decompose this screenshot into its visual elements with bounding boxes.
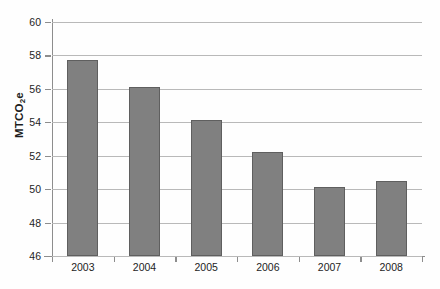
x-tick-mark [237,257,238,262]
bar-chart-figure: MTCO2e 4648505254565860 2003200420052006… [0,0,440,289]
bar [129,87,160,256]
x-tick-mark [422,257,423,262]
y-tick-label: 58 [19,50,41,61]
y-axis-title-subscript: 2 [18,99,27,104]
bar [67,60,98,256]
y-tick-mark [45,55,51,56]
gridline [52,122,422,123]
gridline [52,189,422,190]
y-tick-mark [45,223,51,224]
bar [376,181,407,256]
x-tick-label: 2008 [368,262,414,273]
x-tick-mark [175,257,176,262]
y-tick-mark [45,156,51,157]
gridline [52,156,422,157]
y-tick-mark [45,22,51,23]
x-tick-mark [52,257,53,262]
x-tick-label: 2005 [183,262,229,273]
y-tick-label: 48 [19,218,41,229]
bar [314,187,345,256]
bar [252,152,283,256]
gridline [52,89,422,90]
y-tick-label: 54 [19,117,41,128]
gridline [52,223,422,224]
x-tick-mark [360,257,361,262]
x-tick-mark [299,257,300,262]
y-tick-label: 56 [19,84,41,95]
y-tick-mark [45,189,51,190]
y-tick-mark [45,89,51,90]
gridline [52,22,422,23]
x-tick-label: 2004 [122,262,168,273]
x-tick-label: 2003 [60,262,106,273]
y-tick-label: 60 [19,17,41,28]
plot-area [52,22,422,256]
y-tick-mark [45,256,51,257]
x-tick-label: 2006 [245,262,291,273]
y-tick-label: 46 [19,251,41,262]
bar [191,120,222,256]
y-tick-label: 52 [19,151,41,162]
gridline [52,55,422,56]
y-tick-mark [45,122,51,123]
x-tick-mark [114,257,115,262]
x-tick-label: 2007 [307,262,353,273]
y-tick-label: 50 [19,184,41,195]
